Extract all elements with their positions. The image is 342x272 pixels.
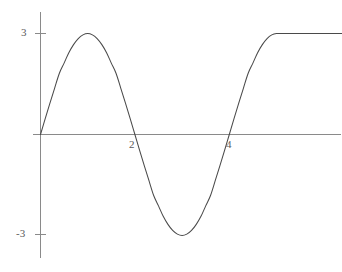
y-axis-tick-label-negative-3: -3: [16, 228, 25, 239]
x-axis-tick-label-4: 4: [226, 139, 232, 150]
y-axis-tick-label-3: 3: [21, 27, 27, 38]
x-axis-tick-label-2: 2: [129, 139, 135, 150]
chart-plot-area: [0, 0, 342, 272]
chart-canvas: 3 -3 2 4: [0, 0, 342, 272]
